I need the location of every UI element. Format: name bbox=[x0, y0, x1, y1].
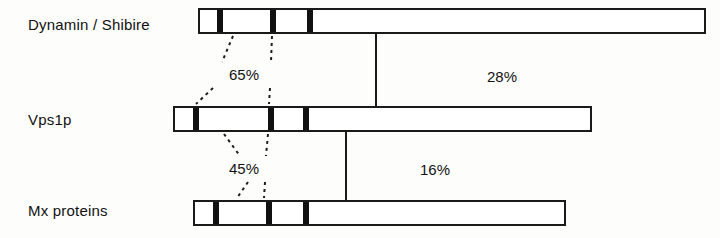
domain-band bbox=[307, 10, 313, 32]
identity-connector-line-upper bbox=[375, 34, 377, 108]
domain-band bbox=[193, 108, 199, 130]
dashed-guide bbox=[237, 182, 248, 198]
dashed-guide bbox=[271, 36, 272, 62]
dashed-guide bbox=[222, 36, 233, 62]
percent-identity-label-45: 45% bbox=[229, 160, 259, 177]
domain-band bbox=[270, 10, 276, 32]
row-label-mx-proteins: Mx proteins bbox=[28, 202, 108, 219]
dashed-guide bbox=[266, 134, 268, 156]
domain-band bbox=[217, 10, 223, 32]
percent-identity-label-65: 65% bbox=[229, 66, 259, 83]
dashed-guide bbox=[264, 182, 265, 198]
row-label-vps1p: Vps1p bbox=[28, 111, 72, 128]
protein-domain-diagram: Dynamin / Shibire Vps1p Mx proteins 65% … bbox=[0, 0, 720, 238]
protein-bar-dynamin-shibire bbox=[198, 8, 706, 34]
dashed-guide bbox=[224, 134, 240, 156]
domain-band bbox=[213, 202, 219, 224]
percent-identity-label-28: 28% bbox=[487, 68, 517, 85]
percent-identity-label-16: 16% bbox=[420, 161, 450, 178]
domain-band bbox=[303, 108, 309, 130]
protein-bar-mx-proteins bbox=[193, 200, 566, 226]
domain-band bbox=[303, 202, 309, 224]
row-label-dynamin-shibire: Dynamin / Shibire bbox=[28, 16, 150, 33]
dashed-guide bbox=[196, 88, 213, 104]
protein-bar-vps1p bbox=[173, 106, 592, 132]
domain-band bbox=[268, 108, 274, 130]
dashed-guide bbox=[269, 88, 270, 104]
domain-band bbox=[266, 202, 272, 224]
identity-connector-line-lower bbox=[345, 132, 347, 202]
